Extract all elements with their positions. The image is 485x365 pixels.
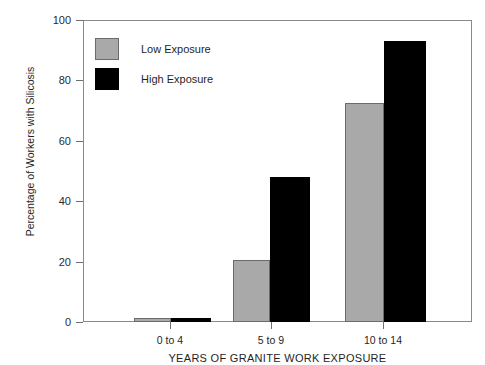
y-axis-label-80-wrap: 80 xyxy=(38,75,71,86)
bar-high-10-to-14 xyxy=(384,41,426,322)
legend-label-low-exposure: Low Exposure xyxy=(141,43,211,55)
y-axis-tick-0 xyxy=(76,322,83,323)
y-axis-label-40: 40 xyxy=(41,196,71,207)
bar-high-0-to-4 xyxy=(171,318,211,323)
y-axis-label-20-wrap: 20 xyxy=(38,257,71,268)
x-axis-tick-5-to-9 xyxy=(271,322,272,329)
y-axis-label-40-wrap: 40 xyxy=(38,196,71,207)
y-axis-label-100-wrap: 100 xyxy=(38,15,71,26)
legend-item-low-exposure: Low Exposure xyxy=(95,34,275,64)
y-axis-label-60: 60 xyxy=(41,136,71,147)
x-axis-label-0-to-4: 0 to 4 xyxy=(115,334,225,346)
y-axis-title: Percentage of Workers with Silicosis xyxy=(25,52,36,252)
y-axis-label-100: 100 xyxy=(41,15,71,26)
y-axis-tick-40 xyxy=(76,201,83,202)
y-axis-label-60-wrap: 60 xyxy=(38,136,71,147)
bar-low-0-to-4 xyxy=(134,318,171,323)
y-axis-tick-100 xyxy=(76,20,83,21)
legend-swatch-low-exposure xyxy=(95,38,119,60)
bar-low-10-to-14 xyxy=(345,103,384,322)
y-axis-label-0-wrap: 0 xyxy=(38,317,71,328)
x-axis-tick-0-to-4 xyxy=(170,322,171,329)
bar-high-5-to-9 xyxy=(270,177,310,322)
legend-item-high-exposure: High Exposure xyxy=(95,64,275,94)
y-axis-label-80: 80 xyxy=(41,75,71,86)
legend-swatch-high-exposure xyxy=(95,68,119,90)
legend-label-high-exposure: High Exposure xyxy=(141,73,213,85)
y-axis-tick-20 xyxy=(76,262,83,263)
y-axis-tick-80 xyxy=(76,80,83,81)
chart-legend: Low Exposure High Exposure xyxy=(95,34,275,94)
bar-low-5-to-9 xyxy=(233,260,270,322)
x-axis-title: YEARS OF GRANITE WORK EXPOSURE xyxy=(83,352,472,364)
y-axis-label-20: 20 xyxy=(41,257,71,268)
y-axis-tick-60 xyxy=(76,141,83,142)
x-axis-label-10-to-14: 10 to 14 xyxy=(328,334,438,346)
x-axis-label-5-to-9: 5 to 9 xyxy=(216,334,326,346)
silicosis-bar-chart: Percentage of Workers with Silicosis 100… xyxy=(0,0,485,365)
y-axis-label-0: 0 xyxy=(41,317,71,328)
x-axis-tick-10-to-14 xyxy=(383,322,384,329)
